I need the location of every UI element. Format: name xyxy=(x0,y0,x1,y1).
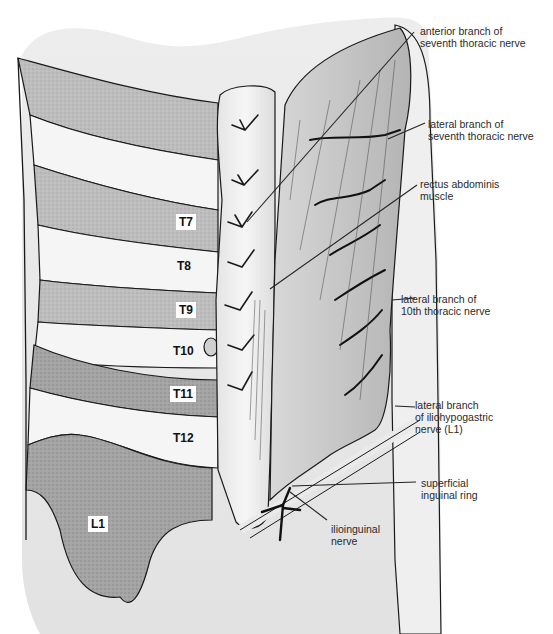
label-rectus-abdominis-muscle: rectus abdominis muscle xyxy=(420,178,499,202)
dermatome-label-t10: T10 xyxy=(170,343,197,359)
dermatome-label-t8: T8 xyxy=(174,258,194,274)
dermatome-label-t11: T11 xyxy=(170,386,196,402)
label-ilioinguinal-nerve: ilioinguinal nerve xyxy=(331,523,380,547)
label-lateral-branch-seventh-thoracic-nerve: lateral branch of seventh thoracic nerve xyxy=(428,118,534,142)
dermatome-label-l1: L1 xyxy=(88,516,108,532)
label-superficial-inguinal-ring: superficial inguinal ring xyxy=(421,477,478,501)
label-lateral-branch-iliohypogastric-nerve: lateral branch of iliohypogastric nerve … xyxy=(415,399,493,435)
label-anterior-branch-seventh-thoracic-nerve: anterior branch of seventh thoracic nerv… xyxy=(420,25,526,49)
rectus-sheath xyxy=(216,86,275,528)
dermatome-label-t7: T7 xyxy=(176,214,196,230)
label-lateral-branch-10th-thoracic-nerve: lateral branch of 10th thoracic nerve xyxy=(401,293,490,317)
dermatome-label-t9: T9 xyxy=(176,302,196,318)
abdominal-wall-illustration xyxy=(0,0,553,634)
dermatome-label-t12: T12 xyxy=(170,430,197,446)
